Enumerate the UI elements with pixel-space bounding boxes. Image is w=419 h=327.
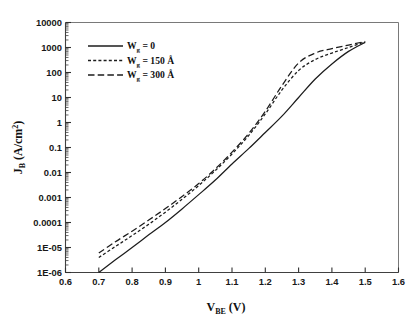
x-tick-label: 0.9	[159, 276, 172, 287]
x-tick-label: 1.6	[392, 276, 405, 287]
y-tick-label: 0.1	[49, 142, 62, 153]
legend-label-1: Wg = 150 Å	[127, 55, 174, 69]
y-tick-label: 100	[46, 67, 62, 78]
x-axis-title: VBE (V)	[206, 300, 245, 316]
legend-label-2: Wg = 300 Å	[127, 69, 174, 83]
y-tick-label: 0.001	[39, 192, 62, 203]
figure-container: 1E-061E-050.00010.0010.010.1110100100010…	[0, 0, 419, 327]
x-tick-label: 1.4	[325, 276, 339, 287]
series-line-2	[99, 41, 365, 253]
y-tick-label: 0.01	[44, 167, 62, 178]
x-tick-label: 0.8	[126, 276, 139, 287]
x-tick-label: 1.2	[259, 276, 272, 287]
y-tick-label: 1E-05	[37, 242, 62, 253]
y-axis-title: JB (A/cm2)	[11, 121, 27, 175]
x-tick-label: 1.5	[359, 276, 372, 287]
x-tick-label: 1.3	[292, 276, 305, 287]
x-tick-label: 0.7	[92, 276, 105, 287]
y-tick-label: 10000	[36, 17, 62, 28]
legend-label-0: Wg = 0	[127, 40, 155, 54]
y-tick-label: 1	[57, 117, 62, 128]
x-tick-label: 1	[196, 276, 201, 287]
y-tick-label: 1000	[41, 42, 62, 53]
x-tick-label: 0.6	[59, 276, 72, 287]
line-chart: 1E-061E-050.00010.0010.010.1110100100010…	[0, 0, 419, 327]
y-tick-label: 0.0001	[33, 217, 62, 228]
x-tick-label: 1.1	[225, 276, 238, 287]
y-tick-label: 10	[52, 92, 62, 103]
